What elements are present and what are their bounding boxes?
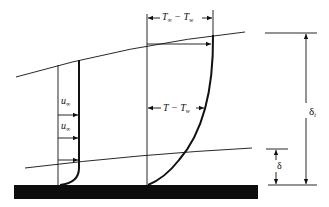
label-delta-t: δt — [309, 106, 316, 118]
thermal-boundary-edge — [16, 32, 245, 77]
label-subscript: ∞ — [66, 126, 70, 132]
label-u-inf-lower: u∞ — [61, 121, 70, 132]
label-subscript: w — [186, 108, 190, 114]
label-part: T − T — [163, 102, 186, 113]
label-part: − T — [172, 11, 189, 22]
label-subscript: w — [189, 17, 193, 23]
velocity-boundary-edge — [25, 148, 252, 168]
label-subscript: t — [314, 112, 316, 118]
label-t-minus-tw: T − Tw — [163, 103, 190, 114]
flat-plate — [14, 185, 258, 199]
label-part: δ — [277, 160, 282, 171]
label-delta: δ — [277, 161, 282, 171]
label-t-inf-minus-tw: T∞ − Tw — [162, 12, 193, 23]
label-subscript: ∞ — [66, 101, 70, 107]
label-u-inf-upper: u∞ — [61, 96, 70, 107]
